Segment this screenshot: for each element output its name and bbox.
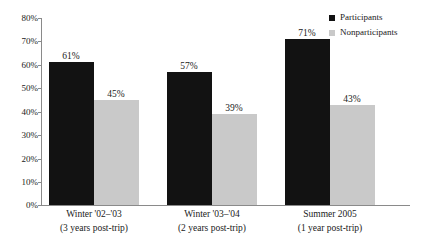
category-name: Winter '03–'04 <box>184 209 240 219</box>
bar-value-label: 43% <box>329 94 375 104</box>
bar-value-label: 57% <box>166 61 212 71</box>
legend-label: Nonparticipants <box>340 28 398 37</box>
y-tick-label: 10% <box>4 178 38 187</box>
bar-group: 57% 39% <box>167 18 257 205</box>
bar-value-label: 71% <box>284 28 330 38</box>
y-tick-label: 60% <box>4 61 38 70</box>
bar-participants <box>167 72 212 205</box>
y-tick-label: 30% <box>4 131 38 140</box>
bar-nonparticipants <box>94 100 139 205</box>
bar-value-label: 45% <box>93 89 139 99</box>
y-tick-label: 80% <box>4 14 38 23</box>
y-tick-label: 40% <box>4 108 38 117</box>
y-tick-label: 70% <box>4 37 38 46</box>
category-sublabel: (1 year post-trip) <box>255 222 405 236</box>
bar-value-label: 61% <box>48 51 94 61</box>
y-tick-label: 50% <box>4 84 38 93</box>
bar-participants <box>49 62 94 205</box>
x-axis-line <box>41 205 410 206</box>
bar-nonparticipants <box>330 105 375 206</box>
bar-chart: 80% 70% 60% 50% 40% 30% 20% 10% 0% 61% 4… <box>0 0 421 252</box>
bar-participants <box>285 39 330 205</box>
legend-item-participants: Participants <box>329 11 421 24</box>
legend-swatch-icon <box>329 15 335 21</box>
y-tick-label: 20% <box>4 155 38 164</box>
bar-group: 71% 43% <box>285 18 375 205</box>
legend-item-nonparticipants: Nonparticipants <box>329 26 421 39</box>
category-name: Summer 2005 <box>303 209 357 219</box>
bar-nonparticipants <box>212 114 257 205</box>
x-category-label-2: Summer 2005 (1 year post-trip) <box>255 208 405 235</box>
chart-legend: Participants Nonparticipants <box>329 11 421 41</box>
bar-group: 61% 45% <box>49 18 139 205</box>
category-name: Winter '02–'03 <box>66 209 122 219</box>
legend-label: Participants <box>340 13 383 22</box>
bar-value-label: 39% <box>211 103 257 113</box>
plot-area: 61% 45% 57% 39% 71% 43% <box>41 18 410 205</box>
legend-swatch-icon <box>329 30 335 36</box>
